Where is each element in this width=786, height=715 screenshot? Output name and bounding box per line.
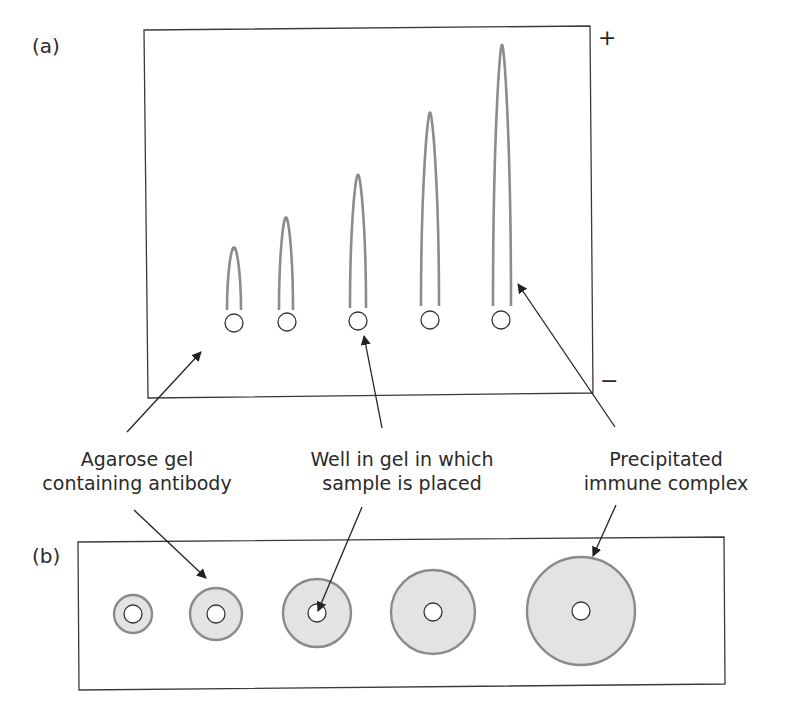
callout-precipitate: Precipitated immune complex bbox=[584, 448, 749, 494]
well-b-3 bbox=[308, 604, 326, 622]
positive-pole-label: + bbox=[598, 25, 616, 50]
immunoelectrophoresis-diagram: (a) + − Agarose gel containing antibody … bbox=[0, 0, 786, 715]
well-b-5 bbox=[572, 602, 590, 620]
rocket-3 bbox=[350, 175, 366, 308]
panel-a-label: (a) bbox=[32, 34, 60, 58]
panel-a-frame bbox=[144, 26, 593, 398]
well-a-4 bbox=[421, 311, 439, 329]
well-a-5 bbox=[492, 311, 510, 329]
arrow-precipitate-b bbox=[593, 505, 616, 556]
rocket-5 bbox=[493, 45, 511, 306]
negative-pole-label: − bbox=[600, 368, 618, 393]
arrow-agarose-b bbox=[134, 510, 206, 578]
well-b-2 bbox=[207, 605, 225, 623]
callout-well-line1: Well in gel in which bbox=[310, 448, 493, 470]
precipitin-rings bbox=[114, 557, 635, 665]
callout-well-line2: sample is placed bbox=[322, 472, 482, 494]
callout-well: Well in gel in which sample is placed bbox=[310, 448, 493, 494]
precipitin-rockets bbox=[227, 45, 511, 310]
callout-agarose-line2: containing antibody bbox=[42, 472, 231, 494]
well-a-3 bbox=[349, 312, 367, 330]
rocket-4 bbox=[421, 113, 439, 306]
arrow-well-a bbox=[364, 336, 382, 428]
well-b-1 bbox=[124, 605, 142, 623]
well-a-1 bbox=[225, 314, 243, 332]
panel-b-label: (b) bbox=[32, 544, 60, 568]
callout-agarose: Agarose gel containing antibody bbox=[42, 448, 231, 494]
callout-precipitate-line2: immune complex bbox=[584, 472, 749, 494]
arrow-agarose-a bbox=[127, 352, 201, 432]
callout-precipitate-line1: Precipitated bbox=[609, 448, 723, 470]
rocket-1 bbox=[227, 248, 241, 310]
well-b-4 bbox=[424, 603, 442, 621]
callout-agarose-line1: Agarose gel bbox=[81, 448, 193, 470]
sample-wells-a bbox=[225, 311, 510, 332]
arrow-precipitate-a bbox=[518, 284, 615, 427]
rocket-2 bbox=[279, 218, 293, 310]
well-a-2 bbox=[278, 313, 296, 331]
